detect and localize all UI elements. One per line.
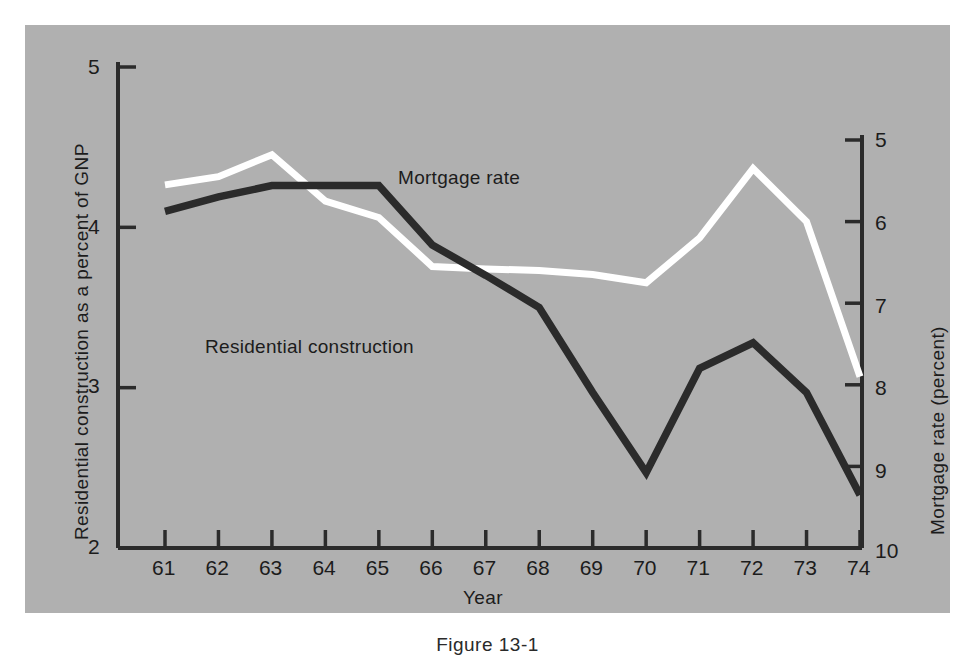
x-tick-label-64: 64 [312,557,335,578]
right-axis-title: Mortgage rate (percent) [928,326,947,535]
left-axis-ticks [118,67,136,388]
x-tick-label-67: 67 [473,557,496,578]
left-tick-label-5: 5 [88,56,100,77]
x-tick-label-74: 74 [847,557,870,578]
x-tick-label-63: 63 [259,557,282,578]
x-tick-label-65: 65 [366,557,389,578]
right-tick-label-7: 7 [875,295,887,316]
x-tick-label-69: 69 [580,557,603,578]
x-tick-label-72: 72 [740,557,763,578]
series-annotation-residential-construction: Residential construction [205,337,414,356]
x-axis-title: Year [463,588,503,607]
x-tick-label-62: 62 [205,557,228,578]
right-axis-ticks [845,140,862,466]
figure-caption: Figure 13-1 [0,634,975,656]
right-tick-label-6: 6 [875,212,887,233]
series-annotation-mortgage-rate: Mortgage rate [398,168,520,187]
x-tick-label-73: 73 [794,557,817,578]
x-axis-ticks [165,530,860,548]
x-tick-label-61: 61 [152,557,175,578]
x-tick-label-66: 66 [419,557,442,578]
x-tick-label-71: 71 [687,557,710,578]
right-tick-label-8: 8 [875,377,887,398]
right-tick-label-9: 9 [875,460,887,481]
x-tick-label-70: 70 [633,557,656,578]
right-tick-label-5: 5 [875,129,887,150]
x-tick-label-68: 68 [526,557,549,578]
right-tick-label-10: 10 [875,540,898,561]
left-axis-title: Residential construction as a percent of… [72,143,91,540]
